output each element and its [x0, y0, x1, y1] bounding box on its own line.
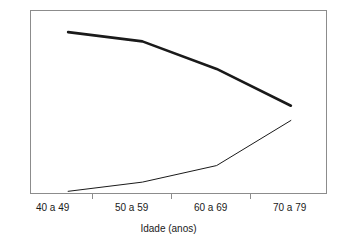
series-line-increasing: [68, 120, 291, 191]
plot-area: [30, 10, 327, 194]
line-chart-figure: 40 a 4950 a 5960 a 6970 a 79 Idade (anos…: [0, 0, 337, 252]
x-axis-tick-label-3: 70 a 79: [273, 201, 306, 215]
x-axis-tick-labels: 40 a 4950 a 5960 a 6970 a 79: [30, 201, 327, 217]
plot-svg: [31, 11, 328, 195]
x-axis-tick-label-1: 50 a 59: [115, 201, 148, 215]
x-axis-tick-label-2: 60 a 69: [194, 201, 227, 215]
x-axis-tick-1: [171, 194, 172, 199]
x-axis-tick-label-0: 40 a 49: [36, 201, 69, 215]
x-axis-tick-0: [92, 194, 93, 199]
x-axis-title: Idade (anos): [0, 222, 337, 236]
x-axis-ticks: [30, 194, 327, 200]
series-line-decreasing: [68, 32, 291, 106]
x-axis-tick-2: [250, 194, 251, 199]
